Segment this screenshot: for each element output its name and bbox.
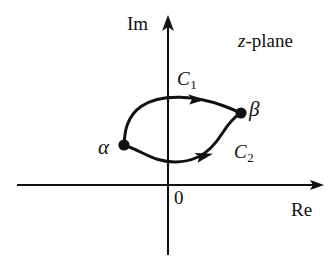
contour-c2-path bbox=[125, 114, 241, 163]
contour-label-c1-subscript: 1 bbox=[190, 77, 197, 92]
contour-label-c1: C1 bbox=[177, 69, 197, 91]
contour-c1-path bbox=[124, 94, 240, 144]
point-label-beta: β bbox=[249, 99, 259, 120]
axis-label-real: Re bbox=[291, 200, 312, 219]
point-label-alpha: α bbox=[98, 137, 109, 158]
point-beta-dot bbox=[235, 107, 246, 118]
real-axis bbox=[17, 180, 324, 190]
plane-label: z-plane bbox=[238, 31, 293, 50]
imaginary-axis bbox=[162, 15, 174, 255]
plane-label-suffix: -plane bbox=[245, 30, 292, 51]
origin-label: 0 bbox=[174, 188, 184, 207]
point-alpha-dot bbox=[118, 139, 129, 150]
axis-label-imaginary: Im bbox=[127, 14, 148, 33]
contour-label-c1-base: C bbox=[177, 68, 190, 89]
z-plane-contour-figure: Im Re 0 z-plane C1 C2 α β bbox=[0, 0, 336, 261]
contour-label-c2: C2 bbox=[234, 142, 254, 164]
contour-label-c2-subscript: 2 bbox=[247, 150, 254, 165]
contour-label-c2-base: C bbox=[234, 141, 247, 162]
